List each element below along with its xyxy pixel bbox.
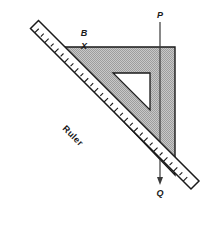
arrowhead-q bbox=[157, 177, 163, 185]
figure-canvas: Ruler P Q B X bbox=[0, 0, 201, 228]
label-b: B bbox=[81, 28, 88, 38]
geometry-figure: Ruler P Q B X bbox=[0, 0, 201, 228]
mark-b-cross: X bbox=[80, 41, 88, 51]
label-p: P bbox=[157, 10, 164, 20]
label-q: Q bbox=[156, 188, 163, 198]
ruler-label: Ruler bbox=[61, 123, 86, 148]
